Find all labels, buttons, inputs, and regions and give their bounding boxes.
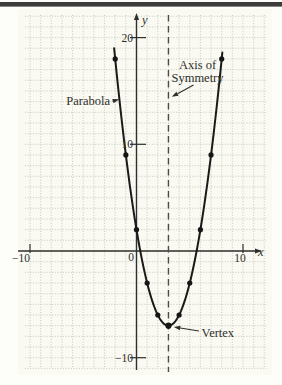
y-tick-label-20: 20 xyxy=(122,32,134,44)
x-tick-label-neg10: −10 xyxy=(12,252,30,264)
parabola-label: Parabola xyxy=(66,94,110,108)
x-axis-letter: x xyxy=(257,245,264,259)
parabola-chart: 2010−100−1010xy ParabolaAxis ofSymmetryV… xyxy=(0,0,282,385)
page: 2010−100−1010xy ParabolaAxis ofSymmetryV… xyxy=(0,0,282,385)
data-point xyxy=(145,280,150,285)
data-point xyxy=(177,312,182,317)
data-point xyxy=(219,56,224,61)
y-axis-letter: y xyxy=(140,13,148,27)
origin-label: 0 xyxy=(128,251,134,263)
data-point xyxy=(187,280,192,285)
y-tick-label-neg10: −10 xyxy=(115,352,133,364)
data-point xyxy=(134,227,139,232)
data-point xyxy=(155,312,160,317)
data-point xyxy=(113,56,118,61)
data-point xyxy=(208,152,213,157)
data-point xyxy=(198,227,203,232)
vertex-label: Vertex xyxy=(202,326,235,340)
top-rule xyxy=(0,2,282,7)
y-tick-label-10: 10 xyxy=(122,138,134,150)
paper-background xyxy=(0,0,282,385)
x-tick-label-10: 10 xyxy=(234,252,246,264)
paper-tint xyxy=(18,9,272,375)
vertex-point xyxy=(165,323,171,329)
data-point xyxy=(123,152,128,157)
axis-of-symmetry-label-line2: Symmetry xyxy=(171,71,224,85)
